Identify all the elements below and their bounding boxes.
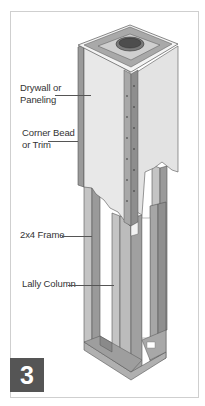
column-illustration — [0, 0, 205, 406]
label-drywall-line1: Drywall or — [20, 82, 61, 94]
label-drywall: Drywall or Paneling — [20, 82, 61, 106]
label-corner-bead: Corner Bead or Trim — [22, 127, 75, 151]
figure-number-badge: 3 — [10, 358, 44, 392]
label-lally-column-line1: Lally Column — [22, 278, 76, 290]
label-2x4-frame: 2x4 Frame — [20, 229, 65, 241]
leader-drywall — [55, 95, 91, 96]
leader-2x4-frame — [62, 236, 92, 237]
leader-corner-bead — [48, 141, 78, 142]
leader-lally-column — [68, 285, 114, 286]
label-corner-bead-line1: Corner Bead — [22, 127, 75, 139]
label-2x4-frame-line1: 2x4 Frame — [20, 229, 65, 241]
label-lally-column: Lally Column — [22, 278, 76, 290]
